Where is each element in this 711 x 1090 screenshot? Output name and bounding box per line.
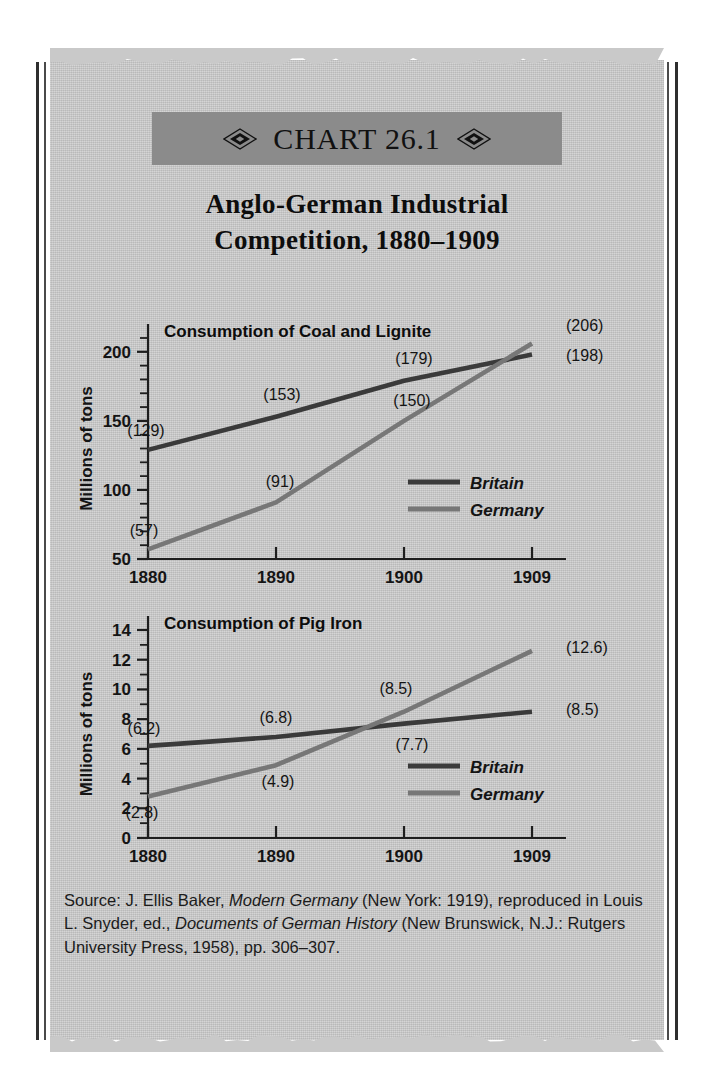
chart-coal-svg: 50100150200Millions of tons1880189019001…: [60, 300, 660, 600]
y-axis-title: Millions of tons: [77, 386, 96, 511]
source-title-1: Modern Germany: [229, 891, 357, 909]
figure-page: CHART 26.1 Anglo-German Industrial Compe…: [0, 0, 711, 1090]
figure-title-line-1: Anglo-German Industrial: [60, 186, 654, 222]
figure-title: Anglo-German Industrial Competition, 188…: [60, 186, 654, 258]
source-prefix: Source: J. Ellis Baker,: [64, 891, 229, 909]
data-point-label: (8.5): [566, 701, 599, 718]
y-tick-label: 6: [122, 740, 131, 759]
y-tick-label: 0: [122, 829, 131, 848]
data-point-label: (6.8): [260, 709, 293, 726]
series-line-britain: [148, 355, 532, 450]
x-tick-label: 1880: [129, 568, 167, 587]
legend-label-britain: Britain: [470, 758, 524, 777]
data-point-label: (6.2): [128, 720, 161, 737]
torn-edge-bottom: [50, 1030, 664, 1052]
data-point-label: (129): [127, 422, 164, 439]
diamond-ornament-icon: [223, 128, 257, 150]
chart-pig-iron: 02468101214Millions of tons1880189019001…: [60, 600, 660, 875]
y-tick-label: 12: [112, 651, 131, 670]
data-point-label: (150): [393, 392, 430, 409]
data-point-label: (153): [263, 386, 300, 403]
data-point-label: (57): [130, 522, 158, 539]
y-tick-label: 14: [112, 621, 131, 640]
x-tick-label: 1909: [513, 568, 551, 587]
x-tick-label: 1890: [257, 568, 295, 587]
chart-pig-iron-svg: 02468101214Millions of tons1880189019001…: [60, 600, 660, 875]
data-point-label: (7.7): [396, 736, 429, 753]
border-rule-right-inner: [667, 62, 669, 1040]
y-tick-label: 200: [103, 343, 131, 362]
legend-label-germany: Germany: [470, 785, 545, 804]
legend-label-britain: Britain: [470, 474, 524, 493]
diamond-ornament-icon: [457, 128, 491, 150]
y-tick-label: 10: [112, 680, 131, 699]
y-axis-title: Millions of tons: [77, 672, 96, 797]
source-note: Source: J. Ellis Baker, Modern Germany (…: [64, 889, 644, 959]
torn-edge-top: [50, 48, 664, 70]
data-point-label: (4.9): [262, 773, 295, 790]
data-point-label: (206): [566, 317, 603, 334]
x-tick-label: 1900: [385, 568, 423, 587]
source-title-2: Documents of German History: [175, 914, 397, 932]
border-rule-right-outer: [675, 62, 678, 1040]
figure-title-line-2: Competition, 1880–1909: [60, 222, 654, 258]
border-rule-left-inner: [44, 62, 46, 1040]
chart-number-banner: CHART 26.1: [152, 112, 562, 165]
border-rule-left-outer: [36, 62, 39, 1040]
data-point-label: (8.5): [380, 680, 413, 697]
data-point-label: (179): [395, 350, 432, 367]
chart-number-label: CHART 26.1: [273, 122, 440, 156]
y-tick-label: 4: [122, 770, 132, 789]
y-tick-label: 50: [112, 550, 131, 569]
legend-label-germany: Germany: [470, 501, 545, 520]
chart-coal-and-lignite: 50100150200Millions of tons1880189019001…: [60, 300, 660, 600]
x-tick-label: 1890: [257, 847, 295, 866]
data-point-label: (91): [266, 473, 294, 490]
plot-title: Consumption of Coal and Lignite: [164, 322, 431, 341]
data-point-label: (198): [566, 347, 603, 364]
plot-title: Consumption of Pig Iron: [164, 614, 362, 633]
data-point-label: (2.8): [126, 804, 159, 821]
x-tick-label: 1909: [513, 847, 551, 866]
y-tick-label: 100: [103, 481, 131, 500]
data-point-label: (12.6): [566, 639, 608, 656]
x-tick-label: 1880: [129, 847, 167, 866]
x-tick-label: 1900: [385, 847, 423, 866]
